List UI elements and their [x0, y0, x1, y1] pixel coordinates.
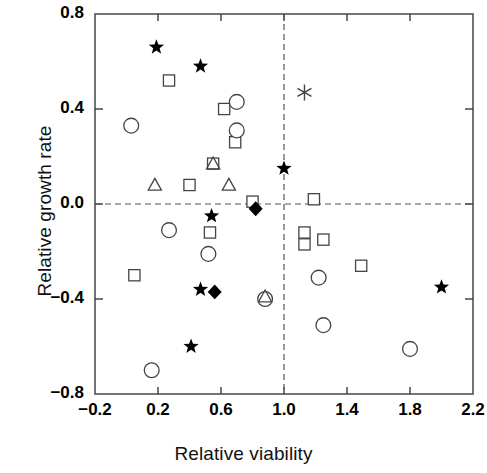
data-point-open-circle: [311, 270, 326, 285]
x-tick-label: 0.2: [128, 400, 188, 420]
data-point-filled-star: [183, 339, 198, 353]
data-point-open-triangle: [148, 178, 161, 190]
y-tick-label: 0.8: [22, 3, 84, 23]
data-point-filled-star: [204, 208, 219, 222]
data-point-open-circle: [403, 341, 418, 356]
data-point-open-square: [299, 239, 310, 250]
data-point-filled-diamond: [208, 284, 222, 299]
x-tick-label: 1.4: [317, 400, 377, 420]
x-tick-label: 2.2: [443, 400, 487, 420]
data-point-open-square: [318, 234, 329, 245]
data-point-open-square: [356, 260, 367, 271]
x-tick-label: 1.0: [254, 400, 314, 420]
reference-lines: [95, 14, 473, 394]
x-tick-label: 0.6: [191, 400, 251, 420]
data-point-filled-star: [276, 160, 291, 174]
data-point-filled-star: [193, 58, 208, 72]
data-point-open-circle: [144, 363, 159, 378]
scatter-plot-figure: −0.20.20.61.01.41.82.2 −0.8−0.40.00.40.8…: [0, 0, 487, 473]
data-point-open-circle: [316, 318, 331, 333]
data-point-open-square: [230, 137, 241, 148]
y-axis-title: Relative growth rate: [34, 91, 56, 331]
x-tick-label: −0.2: [65, 400, 125, 420]
data-point-open-triangle: [222, 178, 235, 190]
data-point-filled-star: [193, 282, 208, 296]
data-point-asterisk: [297, 84, 311, 100]
data-point-open-square: [184, 179, 195, 190]
data-point-open-circle: [162, 223, 177, 238]
data-point-open-circle: [229, 94, 244, 109]
data-point-filled-star: [434, 279, 449, 293]
data-point-open-square: [308, 194, 319, 205]
y-tick-label: −0.8: [22, 383, 84, 403]
data-point-open-square: [219, 103, 230, 114]
data-point-open-circle: [201, 246, 216, 261]
data-point-open-circle: [229, 123, 244, 138]
x-tick-label: 1.8: [380, 400, 440, 420]
data-points: [124, 39, 449, 377]
data-point-filled-star: [149, 39, 164, 53]
data-point-open-square: [129, 270, 140, 281]
x-axis-title: Relative viability: [0, 443, 487, 465]
data-point-open-square: [299, 227, 310, 238]
data-point-open-square: [204, 227, 215, 238]
data-point-open-square: [163, 75, 174, 86]
data-point-open-circle: [124, 118, 139, 133]
